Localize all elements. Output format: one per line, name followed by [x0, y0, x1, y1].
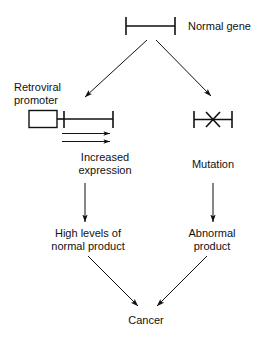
cancer-label: Cancer — [128, 314, 164, 326]
node-high-levels-normal-product: High levels of normal product — [51, 227, 124, 252]
high-levels-line1: High levels of — [55, 227, 122, 239]
increased-expression-line1: Increased — [81, 151, 129, 163]
abnormal-product-line2: product — [194, 240, 231, 252]
node-abnormal-product: Abnormal product — [188, 227, 235, 252]
abnormal-product-line1: Abnormal — [188, 227, 235, 239]
increased-expression-line2: expression — [78, 164, 131, 176]
retroviral-promoter-label-line1: Retroviral — [14, 81, 61, 93]
oncogene-pathway-diagram: Normal gene Retroviral promoter Increase… — [0, 0, 264, 339]
mutation-label: Mutation — [192, 158, 234, 170]
normal-gene-label: Normal gene — [188, 20, 251, 32]
retroviral-promoter-label: Retroviral promoter — [14, 81, 61, 106]
retroviral-promoter-box — [29, 111, 57, 128]
retroviral-promoter-label-line2: promoter — [14, 94, 58, 106]
high-levels-line2: normal product — [51, 240, 124, 252]
node-increased-expression: Increased expression — [78, 151, 131, 176]
